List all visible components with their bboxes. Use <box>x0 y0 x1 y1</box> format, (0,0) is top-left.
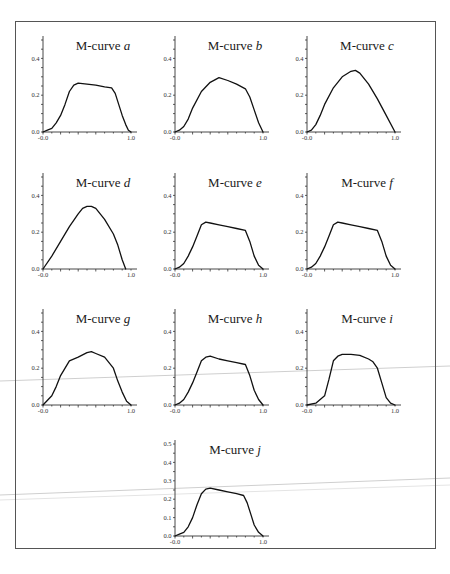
x-tick-label: 1.0 <box>127 407 135 414</box>
x-tick-label: -0.0 <box>302 407 312 414</box>
y-tick-label: 0.2 <box>163 91 171 98</box>
x-tick-label: -0.0 <box>170 134 180 141</box>
y-tick-label: 0.4 <box>31 328 40 335</box>
m-curve-line-i <box>307 354 395 405</box>
x-tick-label: 1.0 <box>391 271 399 278</box>
x-tick-label: -0.0 <box>38 271 48 278</box>
y-tick-label: 0.4 <box>31 192 40 199</box>
y-tick-label: 0.4 <box>163 55 172 62</box>
y-tick-label: 0.2 <box>31 228 39 235</box>
y-tick-label: 0.2 <box>163 364 171 371</box>
x-tick-label: -0.0 <box>170 538 180 545</box>
y-tick-label: 0.1 <box>163 514 171 521</box>
m-curve-line-c <box>307 70 395 132</box>
figure-canvas: 0.00.20.4-0.01.0M-curve a0.00.20.4-0.01.… <box>0 0 450 574</box>
y-tick-label: 0.2 <box>31 364 39 371</box>
panel-h: 0.00.20.4-0.01.0M-curve h <box>163 309 269 414</box>
m-curve-line-d <box>43 206 126 269</box>
y-tick-label: 0.4 <box>163 459 172 466</box>
panel-title: M-curve i <box>341 311 393 326</box>
x-tick-label: -0.0 <box>170 407 180 414</box>
x-tick-label: 1.0 <box>127 134 135 141</box>
panel-title: M-curve g <box>76 311 131 326</box>
m-curve-line-a <box>43 83 131 132</box>
x-tick-label: 1.0 <box>127 271 135 278</box>
panel-i: 0.00.20.4-0.01.0M-curve i <box>295 309 401 414</box>
x-tick-label: 1.0 <box>259 271 267 278</box>
x-tick-label: -0.0 <box>38 407 48 414</box>
x-tick-label: -0.0 <box>38 134 48 141</box>
y-tick-label: 0.4 <box>163 328 172 335</box>
panel-title: M-curve j <box>209 442 261 457</box>
y-tick-label: 0.2 <box>163 495 171 502</box>
y-tick-label: 0.4 <box>295 328 304 335</box>
panel-title: M-curve d <box>76 175 131 190</box>
x-tick-label: -0.0 <box>170 271 180 278</box>
y-tick-label: 0.2 <box>295 364 303 371</box>
panel-title: M-curve h <box>208 311 263 326</box>
m-curve-line-e <box>175 222 263 269</box>
panel-f: 0.00.20.4-0.01.0M-curve f <box>295 173 401 278</box>
y-tick-label: 0.4 <box>31 55 40 62</box>
m-curve-line-b <box>175 78 263 132</box>
y-tick-label: 0.4 <box>163 192 172 199</box>
panel-g: 0.00.20.4-0.01.0M-curve g <box>31 309 137 414</box>
panel-e: 0.00.20.4-0.01.0M-curve e <box>163 173 269 278</box>
panel-b: 0.00.20.4-0.01.0M-curve b <box>163 36 269 141</box>
x-tick-label: 1.0 <box>259 407 267 414</box>
y-tick-label: 0.2 <box>31 91 39 98</box>
panel-c: 0.00.20.4-0.01.0M-curve c <box>295 36 401 141</box>
panel-title: M-curve b <box>208 38 263 53</box>
panel-title: M-curve a <box>76 38 131 53</box>
scan-artifact-line <box>0 366 450 381</box>
y-tick-label: 0.2 <box>295 228 303 235</box>
y-tick-label: 0.4 <box>295 55 304 62</box>
panel-title: M-curve e <box>208 175 262 190</box>
panel-a: 0.00.20.4-0.01.0M-curve a <box>31 36 137 141</box>
panel-title: M-curve c <box>340 38 394 53</box>
m-curve-line-h <box>175 356 263 405</box>
x-tick-label: -0.0 <box>302 134 312 141</box>
x-tick-label: 1.0 <box>391 407 399 414</box>
panel-d: 0.00.20.4-0.01.0M-curve d <box>31 173 137 278</box>
m-curve-line-j <box>175 488 263 536</box>
y-tick-label: 0.4 <box>295 192 304 199</box>
y-tick-label: 0.2 <box>295 91 303 98</box>
y-tick-label: 0.5 <box>163 440 171 447</box>
x-tick-label: 1.0 <box>391 134 399 141</box>
x-tick-label: 1.0 <box>259 134 267 141</box>
x-tick-label: -0.0 <box>302 271 312 278</box>
y-tick-label: 0.2 <box>163 228 171 235</box>
panel-title: M-curve f <box>341 175 395 190</box>
m-curve-line-f <box>307 222 395 269</box>
figure-frame <box>16 22 436 549</box>
y-tick-label: 0.3 <box>163 477 171 484</box>
panel-grid: 0.00.20.4-0.01.0M-curve a0.00.20.4-0.01.… <box>31 36 401 545</box>
x-tick-label: 1.0 <box>259 538 267 545</box>
